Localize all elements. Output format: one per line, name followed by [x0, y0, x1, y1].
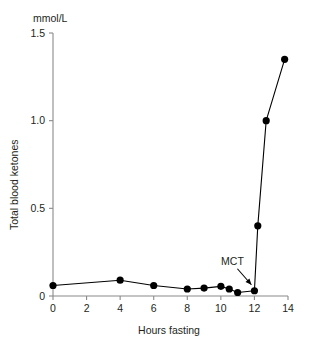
x-axis-title: Hours fasting	[138, 324, 200, 336]
y-tick-label: 1.5	[30, 27, 45, 39]
annotation-label-mct: MCT	[221, 255, 244, 267]
x-tick-label: 8	[184, 302, 190, 314]
data-point-marker	[217, 283, 224, 290]
data-point-marker	[263, 117, 270, 124]
data-point-marker	[281, 56, 288, 63]
x-tick-label: 2	[84, 302, 90, 314]
x-tick-label: 14	[282, 302, 294, 314]
y-axis-ticks: 00.51.01.5	[30, 27, 53, 302]
data-point-marker	[150, 282, 157, 289]
x-tick-label: 12	[249, 302, 261, 314]
chart-annotations: MCT	[221, 255, 251, 285]
data-point-marker	[251, 287, 258, 294]
series-line-total-blood-ketones	[53, 59, 285, 292]
ketones-line-chart: mmol/L Total blood ketones Hours fasting…	[0, 0, 309, 346]
data-point-marker	[226, 285, 233, 292]
data-point-marker	[234, 289, 241, 296]
y-unit-label: mmol/L	[33, 12, 68, 24]
x-tick-label: 4	[117, 302, 123, 314]
y-tick-label: 0	[39, 290, 45, 302]
x-tick-label: 10	[215, 302, 227, 314]
y-tick-label: 1.0	[30, 114, 45, 126]
y-axis-title: Total blood ketones	[8, 140, 20, 230]
chart-figure: mmol/L Total blood ketones Hours fasting…	[0, 0, 309, 346]
x-axis-ticks: 02468101214	[50, 296, 294, 314]
data-point-marker	[49, 282, 56, 289]
data-point-marker	[184, 285, 191, 292]
data-point-marker	[117, 277, 124, 284]
y-tick-label: 0.5	[30, 202, 45, 214]
series-markers	[49, 56, 288, 296]
data-point-marker	[200, 285, 207, 292]
x-tick-label: 0	[50, 302, 56, 314]
x-tick-label: 6	[151, 302, 157, 314]
data-point-marker	[254, 222, 261, 229]
